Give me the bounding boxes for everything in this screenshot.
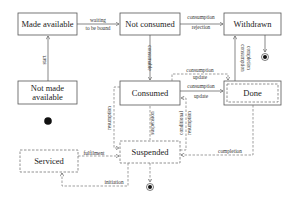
initial-node-icon xyxy=(44,117,52,125)
state-label: Withdrawn xyxy=(234,19,273,29)
state-label: Not consumed xyxy=(125,19,175,29)
state-label: Serviced xyxy=(34,156,64,166)
final-node-withdrawn-icon xyxy=(262,54,269,61)
state-serviced: Serviced xyxy=(20,150,78,172)
label-update-dashed-1: consumption xyxy=(186,67,214,73)
state-not-made-available: Not made available xyxy=(18,81,77,104)
label-initiation: initiation xyxy=(104,179,123,185)
final-node-suspended-icon xyxy=(147,184,154,191)
state-label: Made available xyxy=(21,19,73,29)
label-waiting-2: to be bound xyxy=(85,25,110,31)
label-update-solid-1: consumption xyxy=(187,83,215,89)
label-start: start xyxy=(41,55,47,65)
label-completion: completion xyxy=(218,148,242,154)
label-consumable: consumable xyxy=(147,45,153,71)
label-fulfilment: fulfilment xyxy=(83,150,105,156)
label-conditional-1: conditional xyxy=(178,111,184,135)
state-consumed: Consumed xyxy=(120,81,180,105)
label-suspension: suspension xyxy=(149,111,155,135)
state-suspended: Suspended xyxy=(120,141,180,163)
label-update-solid-2: update xyxy=(194,93,209,99)
label-waiting-1: waiting xyxy=(90,17,106,23)
state-diagram: Made available Not consumed Withdrawn No… xyxy=(0,0,298,202)
label-completion-2: completion xyxy=(246,46,252,70)
label-resumption: resumption xyxy=(106,106,112,130)
state-made-available: Made available xyxy=(18,13,77,35)
state-not-consumed: Not consumed xyxy=(120,13,180,35)
state-label: Suspended xyxy=(132,147,170,157)
label-conditional-2: resumption xyxy=(186,111,192,135)
state-label: Done xyxy=(243,88,262,98)
label-rejection-1: consumption xyxy=(187,14,215,20)
label-completion-1: consumption xyxy=(240,44,246,72)
state-done: Done xyxy=(224,81,281,105)
edge-resumption xyxy=(114,87,120,148)
state-label-line2: available xyxy=(32,92,63,102)
state-withdrawn: Withdrawn xyxy=(224,13,281,35)
label-update-dashed-2: update xyxy=(193,74,208,80)
state-label: Consumed xyxy=(132,88,169,98)
label-rejection-2: rejection xyxy=(192,24,211,30)
